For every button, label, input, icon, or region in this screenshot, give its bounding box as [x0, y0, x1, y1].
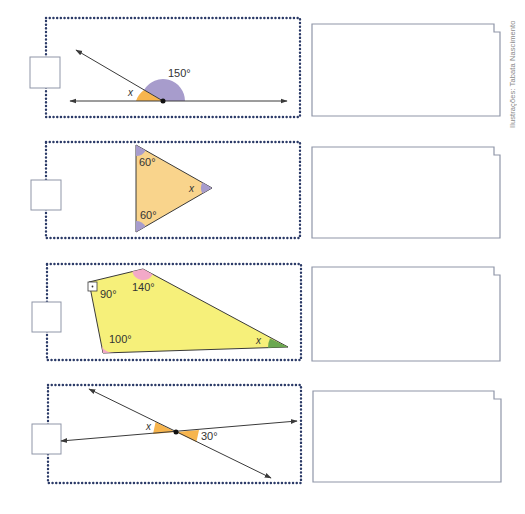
- label-x: x: [127, 87, 134, 98]
- label-60-bottom: 60°: [140, 209, 157, 221]
- label-60-top: 60°: [139, 156, 156, 168]
- triangle-angle-x: [201, 183, 212, 194]
- exercise-d: x 30°: [32, 385, 501, 483]
- angle-30-wedge: [176, 430, 199, 442]
- quad-angle-x: [268, 339, 288, 348]
- label-30: 30°: [201, 430, 218, 442]
- exercise-a-answer-box[interactable]: [30, 57, 60, 88]
- label-x: x: [255, 335, 262, 346]
- ray-line: [76, 50, 163, 101]
- illustration-credit: Ilustrações: Tabata Nascimento: [508, 18, 520, 128]
- vertex-point: [161, 99, 166, 104]
- exercise-d-answer-box[interactable]: [32, 424, 61, 454]
- exercise-b-answer-box[interactable]: [31, 180, 61, 210]
- exercise-d-response-box[interactable]: [313, 391, 501, 482]
- exercise-b: 60° 60° x: [31, 142, 500, 238]
- label-150: 150°: [168, 67, 191, 79]
- worksheet: 150° x 60° 60° x 90° 140° 100° x: [0, 0, 525, 514]
- exercise-c-response-box[interactable]: [312, 267, 500, 361]
- label-x: x: [145, 421, 152, 432]
- line-horizontal: [61, 421, 297, 441]
- line-diagonal: [89, 389, 271, 478]
- label-140: 140°: [132, 281, 155, 293]
- label-x: x: [188, 183, 195, 194]
- exercise-c: 90° 140° 100° x: [32, 264, 500, 361]
- label-100: 100°: [109, 333, 132, 345]
- exercise-b-response-box[interactable]: [312, 147, 500, 238]
- exercise-a-response-box[interactable]: [312, 24, 500, 116]
- label-90: 90°: [100, 288, 117, 300]
- exercise-c-answer-box[interactable]: [32, 302, 61, 332]
- exercise-a: 150° x: [30, 18, 500, 117]
- right-angle-dot: [92, 286, 94, 288]
- intersection-point: [174, 430, 179, 435]
